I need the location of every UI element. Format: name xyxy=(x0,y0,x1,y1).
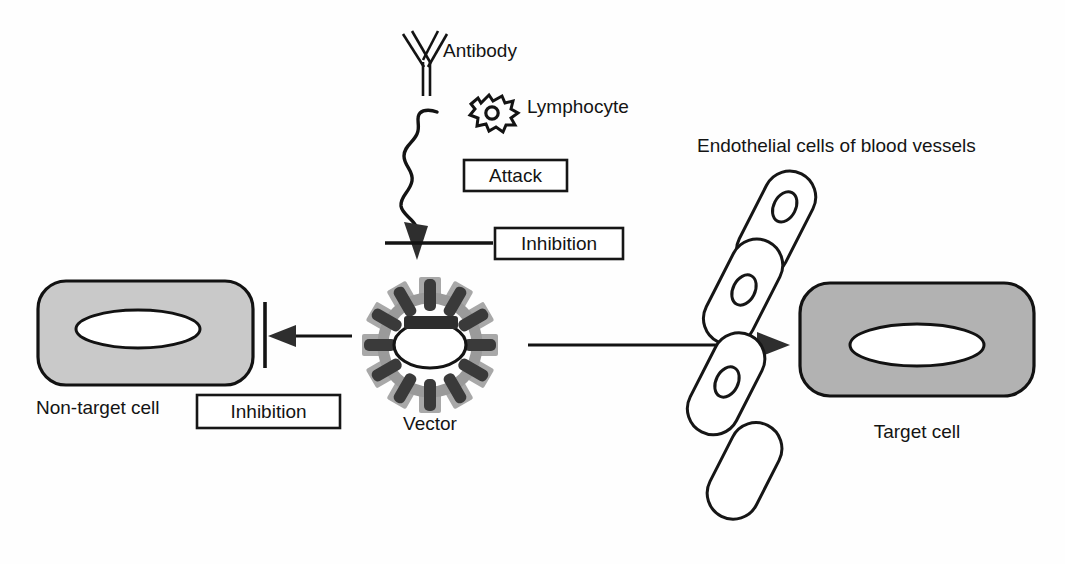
inhibition-box-left-label: Inhibition xyxy=(230,401,306,422)
inhibition-box-top: Inhibition xyxy=(495,228,623,259)
endothelium-label: Endothelial cells of blood vessels xyxy=(697,135,976,156)
lymphocyte-label: Lymphocyte xyxy=(527,96,629,117)
vector-icon xyxy=(362,277,498,413)
wavy-attack-arrow xyxy=(401,110,437,260)
antibody-label: Antibody xyxy=(443,40,517,61)
arrow-to-non-target-cell xyxy=(268,325,352,347)
attack-box: Attack xyxy=(464,160,567,191)
attack-box-label: Attack xyxy=(489,165,542,186)
target-cell xyxy=(800,283,1034,396)
inhibition-box-top-label: Inhibition xyxy=(521,233,597,254)
vector-gene-insert xyxy=(404,316,458,329)
diagram-svg: Antibody Lymphocyte Attack Inhibition xyxy=(0,0,1065,564)
lymphocyte-icon xyxy=(470,95,518,132)
attack-arrowhead xyxy=(404,222,428,260)
diagram-canvas: Antibody Lymphocyte Attack Inhibition xyxy=(0,0,1065,564)
inhibition-box-left: Inhibition xyxy=(197,395,340,428)
vector-label: Vector xyxy=(403,413,458,434)
antibody-icon xyxy=(403,31,447,96)
non-target-cell-label: Non-target cell xyxy=(36,397,160,418)
non-target-cell xyxy=(38,281,253,385)
target-cell-label: Target cell xyxy=(874,421,961,442)
